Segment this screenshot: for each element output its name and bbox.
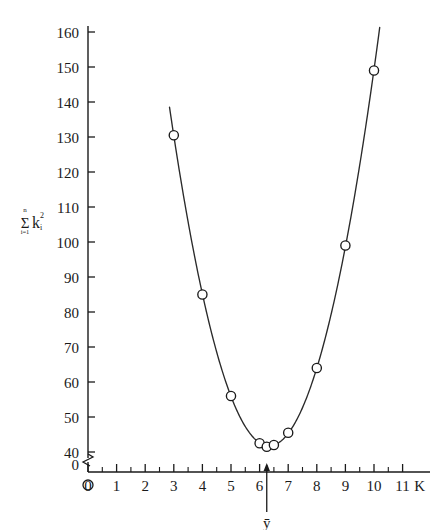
data-point-marker xyxy=(169,131,178,140)
fitted-curve xyxy=(170,27,380,445)
mean-annotation: ȳ xyxy=(263,463,271,530)
y-tick-label: 60 xyxy=(64,375,79,391)
data-point xyxy=(369,66,378,75)
x-tick-label: 1 xyxy=(113,478,121,494)
data-point-marker xyxy=(312,363,321,372)
x-tick-label: 2 xyxy=(141,478,149,494)
summand-variable: k xyxy=(32,214,40,231)
data-point xyxy=(226,391,235,400)
summand-superscript: 2 xyxy=(40,212,44,220)
x-axis-label: K xyxy=(414,478,425,494)
data-point xyxy=(269,440,278,449)
data-point-marker xyxy=(341,241,350,250)
data-point xyxy=(198,290,207,299)
data-point xyxy=(284,428,293,437)
y-tick-label: 100 xyxy=(57,235,80,251)
x-tick-label: 7 xyxy=(284,478,292,494)
y-tick-label: 70 xyxy=(64,340,79,356)
summand-term: k2i xyxy=(32,215,40,231)
data-point-marker xyxy=(226,391,235,400)
data-point-marker xyxy=(269,440,278,449)
y-tick-label: 140 xyxy=(57,95,80,111)
chart-canvas: 4050607080901001101201301401501600012345… xyxy=(0,0,437,530)
fitted-curve-layer xyxy=(170,27,380,445)
mean-arrow-label: ȳ xyxy=(263,515,271,530)
summation-notation: n Σ i=1 xyxy=(18,216,32,231)
y-tick-label: 120 xyxy=(57,165,80,181)
data-point-marker xyxy=(369,66,378,75)
data-point xyxy=(341,241,350,250)
y-axis-label: n Σ i=1 k2i xyxy=(6,215,52,231)
x-tick-label: 8 xyxy=(313,478,321,494)
x-tick-label: 11 xyxy=(395,478,409,494)
data-point xyxy=(169,131,178,140)
y-origin-label: 0 xyxy=(72,457,80,473)
summation-upper-limit: n xyxy=(18,207,32,214)
x-tick-label: 3 xyxy=(170,478,178,494)
data-point xyxy=(312,363,321,372)
y-tick-label: 130 xyxy=(57,130,80,146)
data-point-marker xyxy=(284,428,293,437)
y-tick-label: 110 xyxy=(57,200,79,216)
x-tick-label: 6 xyxy=(256,478,264,494)
y-tick-label: 50 xyxy=(64,410,79,426)
x-tick-label: 10 xyxy=(367,478,382,494)
data-point-layer xyxy=(169,66,378,451)
y-tick-label: 160 xyxy=(57,25,80,41)
y-tick-label: 80 xyxy=(64,305,79,321)
x-tick-label: 9 xyxy=(342,478,350,494)
x-tick-label: 0 xyxy=(84,478,92,494)
axes-layer xyxy=(83,26,430,490)
summation-lower-limit: i=1 xyxy=(17,229,33,236)
x-tick-label: 4 xyxy=(199,478,207,494)
annotation-layer: ȳ xyxy=(263,463,271,530)
y-tick-label: 150 xyxy=(57,60,80,76)
mean-arrow-head xyxy=(264,463,270,471)
x-tick-label: 5 xyxy=(227,478,235,494)
y-tick-label: 90 xyxy=(64,270,79,286)
summand-subscript: i xyxy=(40,224,42,232)
data-point-marker xyxy=(198,290,207,299)
